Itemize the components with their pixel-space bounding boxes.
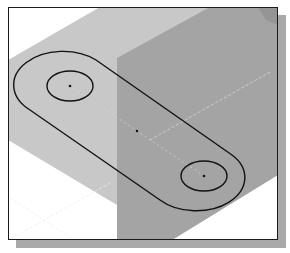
- slot-center-point[interactable]: [136, 130, 138, 132]
- sketch-canvas: [8, 7, 278, 240]
- right-center-point[interactable]: [203, 175, 206, 178]
- left-center-point[interactable]: [69, 85, 72, 88]
- graphics-viewport[interactable]: [8, 7, 278, 240]
